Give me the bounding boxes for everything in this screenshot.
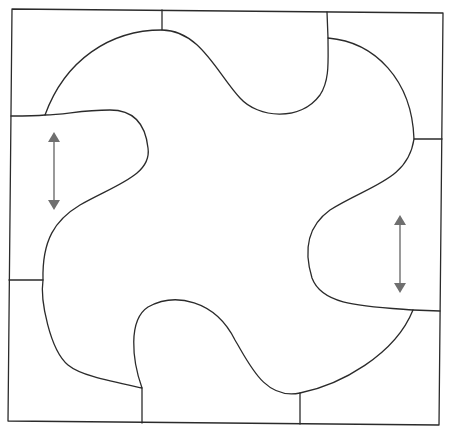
- arrow-down-icon: [394, 283, 406, 293]
- divider-left-upper: [11, 115, 45, 116]
- arrow-up-icon: [48, 132, 60, 142]
- left-double-arrow: [48, 132, 60, 210]
- arrow-up-icon: [394, 215, 406, 225]
- right-double-arrow: [394, 215, 406, 293]
- central-blob: [42, 30, 414, 394]
- divider-right-lower: [413, 310, 440, 311]
- arrow-down-icon: [48, 200, 60, 210]
- divider-top-right: [327, 12, 328, 38]
- outer-frame: [8, 9, 443, 425]
- puzzle-diagram: [0, 0, 453, 437]
